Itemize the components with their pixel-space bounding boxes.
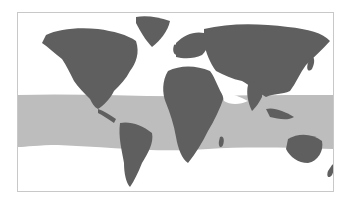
south-america xyxy=(119,122,152,187)
greenland xyxy=(136,16,170,47)
australia xyxy=(286,135,322,163)
british-isles xyxy=(173,45,178,55)
europe xyxy=(176,32,208,58)
map-canvas xyxy=(18,13,334,192)
world-map xyxy=(17,12,334,192)
new-zealand xyxy=(327,165,334,177)
